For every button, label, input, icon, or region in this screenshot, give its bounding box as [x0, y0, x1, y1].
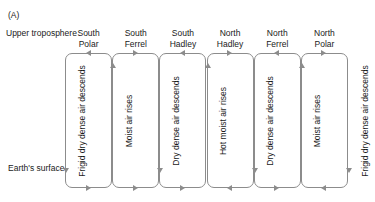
panel-label: (A)	[8, 10, 19, 20]
circulation-cell-north-polar	[301, 53, 348, 188]
top-flow-arrow-south-hadley	[180, 50, 185, 56]
circulation-cell-north-ferrel	[254, 53, 301, 188]
bottom-flow-arrow-north-ferrel	[274, 185, 279, 191]
circulation-cell-south-ferrel	[112, 53, 159, 188]
top-flow-arrow-north-hadley	[227, 50, 232, 56]
bottom-flow-arrow-south-polar	[86, 185, 91, 191]
earths-surface-label: Earth's surface	[8, 163, 62, 174]
circulation-cell-north-hadley	[207, 53, 254, 188]
upper-troposphere-label: Upper troposphere	[6, 28, 64, 39]
earths-surface-text: Earth's surface	[8, 163, 64, 173]
top-flow-arrow-north-ferrel	[274, 50, 279, 56]
bottom-flow-arrow-south-ferrel	[133, 185, 138, 191]
vertical-flow-arrow-0	[63, 168, 69, 173]
circulation-cell-south-polar	[65, 53, 112, 188]
branch-label-6: Frigid dry dense air descends	[351, 61, 375, 180]
bottom-flow-arrow-south-hadley	[180, 185, 185, 191]
vertical-flow-arrow-2	[157, 168, 163, 173]
top-flow-arrow-north-polar	[321, 50, 326, 56]
top-flow-arrow-south-polar	[86, 50, 91, 56]
vertical-flow-arrow-6	[346, 168, 352, 173]
bottom-flow-arrow-north-polar	[321, 185, 326, 191]
bottom-flow-arrow-north-hadley	[227, 185, 232, 191]
vertical-flow-arrow-1	[110, 63, 116, 68]
column-header-north-polar: NorthPolar	[295, 28, 354, 50]
column-header-line2: Polar	[295, 39, 354, 50]
top-flow-arrow-south-ferrel	[133, 50, 138, 56]
vertical-flow-arrow-3	[205, 63, 211, 68]
column-header-line1: North	[295, 28, 354, 39]
circulation-cell-south-hadley	[159, 53, 206, 188]
vertical-flow-arrow-4	[252, 168, 258, 173]
vertical-flow-arrow-5	[299, 63, 305, 68]
